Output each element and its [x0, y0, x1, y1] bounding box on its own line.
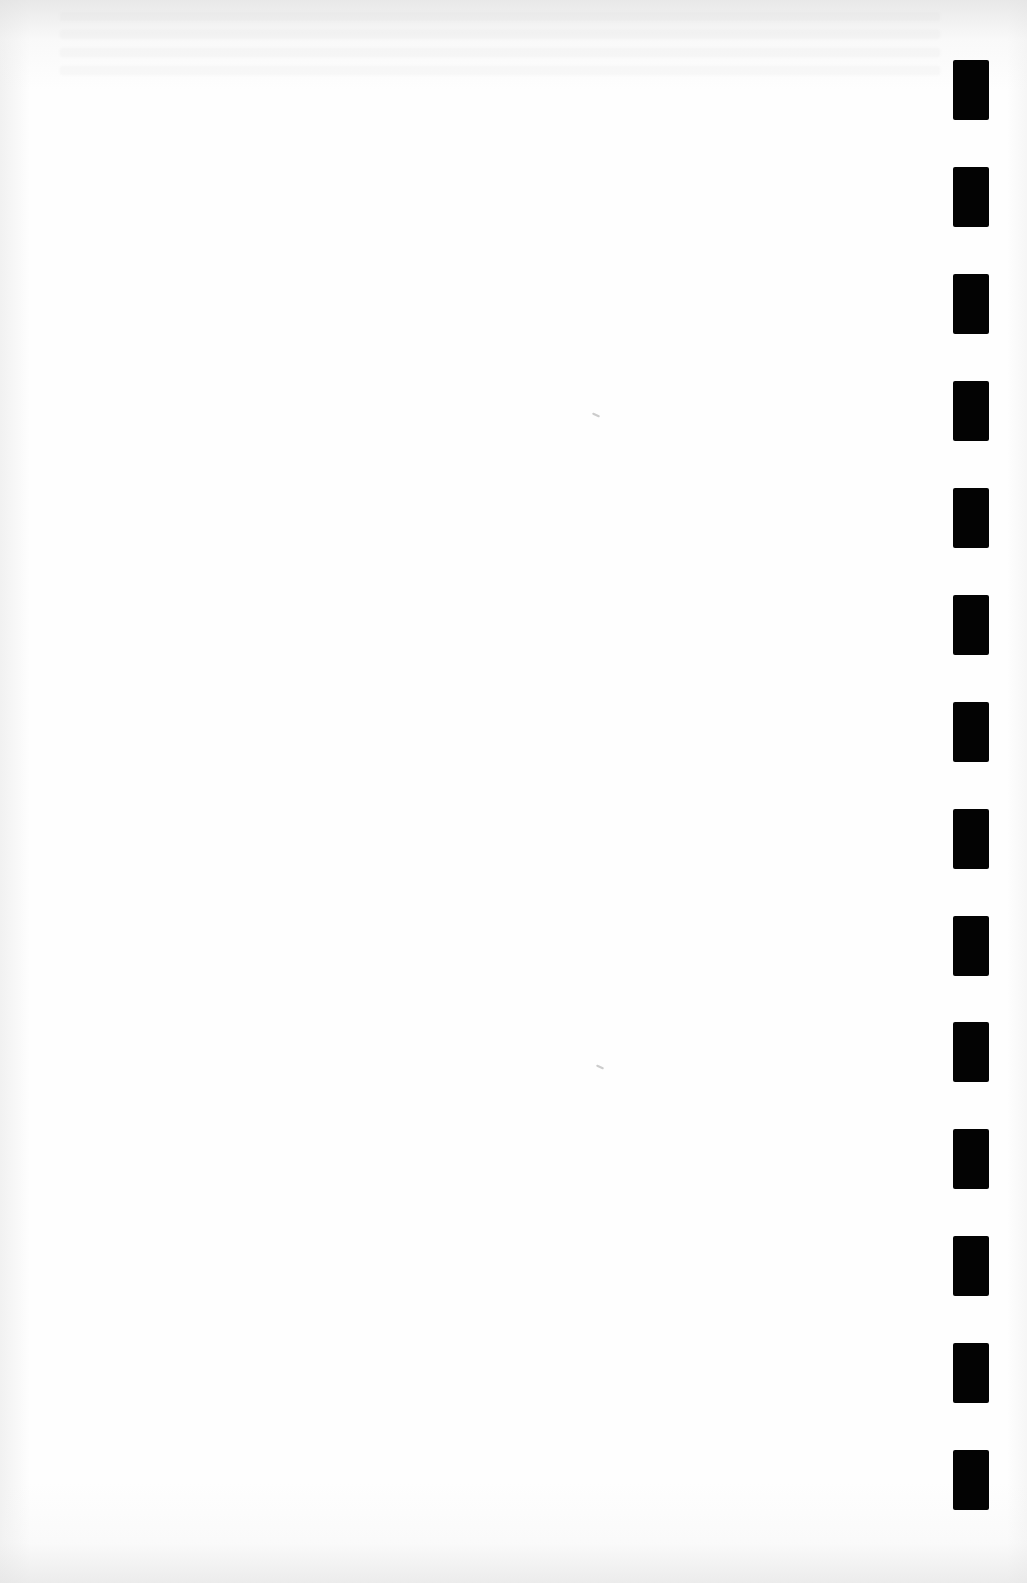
binding-mark	[953, 916, 989, 976]
binding-mark	[953, 809, 989, 869]
binding-mark	[953, 274, 989, 334]
binding-mark	[953, 1450, 989, 1510]
binding-mark	[953, 167, 989, 227]
binding-mark	[953, 1343, 989, 1403]
binding-mark	[953, 702, 989, 762]
binding-mark	[953, 1129, 989, 1189]
binding-mark	[953, 1022, 989, 1082]
binding-mark	[953, 488, 989, 548]
scan-speck	[592, 412, 600, 417]
bleed-through-text	[60, 12, 940, 82]
binding-mark	[953, 60, 989, 120]
binding-mark	[953, 381, 989, 441]
binding-mark	[953, 595, 989, 655]
binding-mark	[953, 1236, 989, 1296]
scan-speck	[596, 1064, 604, 1069]
scanned-page	[0, 0, 1027, 1583]
